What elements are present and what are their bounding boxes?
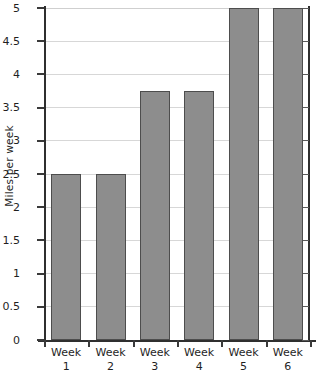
y-tick-mark-right — [302, 140, 309, 141]
y-tick-label: 5 — [0, 3, 20, 14]
y-tick-mark — [37, 206, 44, 208]
y-tick-mark-right — [302, 306, 309, 307]
y-tick-label: 1 — [0, 268, 20, 279]
y-tick-label: 2 — [0, 202, 20, 213]
plot-area: 00.511.522.533.544.55 — [44, 8, 310, 340]
y-tick-label: 3.5 — [0, 102, 20, 113]
y-tick-mark — [37, 40, 44, 42]
bar — [96, 174, 126, 340]
y-tick-mark-right — [302, 174, 309, 175]
y-tick-mark-right — [302, 207, 309, 208]
bar — [51, 174, 81, 340]
gridline — [46, 41, 308, 42]
bar — [229, 8, 259, 340]
gridline — [46, 74, 308, 75]
y-tick-mark — [37, 273, 44, 275]
bar — [140, 91, 170, 340]
y-tick-label: 4.5 — [0, 36, 20, 47]
y-tick-mark-right — [302, 240, 309, 241]
y-tick-label: 0 — [0, 335, 20, 346]
y-tick-label: 3 — [0, 135, 20, 146]
gridline — [46, 174, 308, 175]
bar — [184, 91, 214, 340]
gridline — [46, 107, 308, 108]
y-tick-mark-right — [302, 41, 309, 42]
gridline — [46, 306, 308, 307]
gridline — [46, 273, 308, 274]
x-axis-label-line2: 6 — [261, 360, 315, 374]
y-tick-mark — [37, 173, 44, 175]
y-tick-mark — [37, 73, 44, 75]
bar-chart: Miles per week 00.511.522.533.544.55 Wee… — [0, 0, 327, 391]
y-tick-mark — [37, 306, 44, 308]
x-axis-label: Week6 — [261, 346, 315, 374]
y-tick-mark-right — [302, 340, 309, 341]
y-tick-label: 1.5 — [0, 235, 20, 246]
y-tick-mark — [37, 107, 44, 109]
y-tick-mark-right — [302, 8, 309, 9]
gridline — [46, 240, 308, 241]
y-tick-mark — [37, 339, 44, 341]
gridline — [46, 8, 308, 9]
y-tick-mark — [37, 239, 44, 241]
gridline — [46, 140, 308, 141]
y-tick-label: 4 — [0, 69, 20, 80]
y-tick-mark-right — [302, 107, 309, 108]
y-tick-mark-right — [302, 273, 309, 274]
x-axis-label-line1: Week — [261, 346, 315, 360]
gridline — [46, 207, 308, 208]
y-tick-mark — [37, 140, 44, 142]
y-tick-mark — [37, 7, 44, 9]
y-tick-mark-right — [302, 74, 309, 75]
y-tick-label: 2.5 — [0, 169, 20, 180]
bar — [273, 8, 303, 340]
y-tick-label: 0.5 — [0, 301, 20, 312]
